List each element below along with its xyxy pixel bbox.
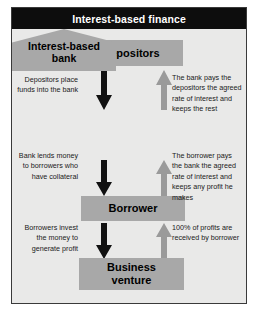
caption-right-bank-pays: The bank pays the depositors the agreed …	[172, 73, 242, 115]
diagram-canvas: Depositors Interest-based bank	[12, 29, 246, 303]
node-bank-label-line2: bank	[12, 52, 116, 64]
caption-right-profits: 100% of profits are received by borrower	[172, 223, 242, 244]
caption-left-bank-lends: Bank lends money to borrowers who have c…	[16, 151, 78, 182]
diagram-figure: Interest-based finance Depositors	[0, 0, 259, 317]
node-bank-label-group: Interest-based bank	[12, 40, 116, 65]
page-title: Interest-based finance	[72, 13, 186, 25]
node-borrower-label: Borrower	[109, 202, 158, 215]
caption-right-borrower-pays: The borrower pays the bank the agreed ra…	[172, 151, 242, 203]
arrow-up-profits	[156, 223, 172, 259]
arrow-down-deposit	[96, 70, 112, 110]
arrow-up-repayment	[156, 160, 172, 196]
node-borrower: Borrower	[81, 196, 185, 221]
arrow-up-return-to-depositors	[156, 70, 172, 110]
node-venture-label-line2: venture	[112, 274, 152, 286]
caption-left-borrowers-invest: Borrowers invest the money to generate p…	[16, 223, 78, 254]
arrow-down-investment	[96, 223, 112, 259]
caption-left-deposits: Depositors place funds into the bank	[16, 75, 78, 96]
node-interest-based-bank: Interest-based bank	[12, 29, 116, 71]
node-business-venture: Business venture	[79, 258, 184, 290]
node-venture-label-group: Business venture	[107, 261, 156, 287]
diagram-frame: Interest-based finance Depositors	[11, 7, 247, 304]
arrow-down-lending	[96, 160, 112, 196]
node-venture-label-line1: Business	[107, 261, 156, 273]
diagram-title-bar: Interest-based finance	[12, 8, 246, 29]
node-bank-label-line1: Interest-based	[12, 40, 116, 52]
